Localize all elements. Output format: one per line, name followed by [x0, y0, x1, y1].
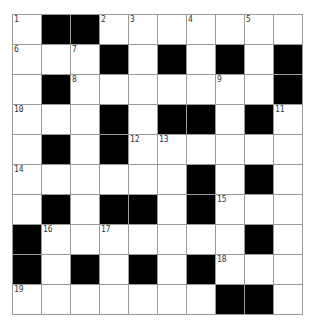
- letter-cell[interactable]: [13, 75, 42, 105]
- block-cell: [158, 45, 187, 75]
- letter-cell[interactable]: [71, 165, 100, 195]
- letter-cell[interactable]: [245, 195, 274, 225]
- letter-cell[interactable]: [187, 75, 216, 105]
- clue-number: 2: [101, 15, 106, 24]
- letter-cell[interactable]: [13, 135, 42, 165]
- letter-cell[interactable]: [71, 135, 100, 165]
- letter-cell[interactable]: [71, 105, 100, 135]
- letter-cell[interactable]: [274, 225, 303, 255]
- letter-cell[interactable]: [129, 165, 158, 195]
- letter-cell[interactable]: 19: [13, 285, 42, 315]
- letter-cell[interactable]: 18: [216, 255, 245, 285]
- letter-cell[interactable]: [71, 195, 100, 225]
- letter-cell[interactable]: [42, 105, 71, 135]
- letter-cell[interactable]: [187, 135, 216, 165]
- letter-cell[interactable]: [129, 75, 158, 105]
- block-cell: [42, 15, 71, 45]
- letter-cell[interactable]: [42, 255, 71, 285]
- letter-cell[interactable]: [187, 225, 216, 255]
- letter-cell[interactable]: [158, 255, 187, 285]
- letter-cell[interactable]: [216, 15, 245, 45]
- clue-number: 10: [14, 105, 24, 114]
- letter-cell[interactable]: 16: [42, 225, 71, 255]
- letter-cell[interactable]: [100, 75, 129, 105]
- letter-cell[interactable]: [158, 225, 187, 255]
- letter-cell[interactable]: [216, 105, 245, 135]
- block-cell: [274, 75, 303, 105]
- letter-cell[interactable]: 5: [245, 15, 274, 45]
- letter-cell[interactable]: [245, 135, 274, 165]
- letter-cell[interactable]: [158, 165, 187, 195]
- letter-cell[interactable]: [216, 135, 245, 165]
- letter-cell[interactable]: [129, 105, 158, 135]
- block-cell: [13, 255, 42, 285]
- letter-cell[interactable]: 9: [216, 75, 245, 105]
- letter-cell[interactable]: [42, 285, 71, 315]
- letter-cell[interactable]: 4: [187, 15, 216, 45]
- letter-cell[interactable]: [129, 225, 158, 255]
- letter-cell[interactable]: [245, 75, 274, 105]
- letter-cell[interactable]: [42, 165, 71, 195]
- letter-cell[interactable]: [129, 285, 158, 315]
- clue-number: 3: [130, 15, 135, 24]
- letter-cell[interactable]: 2: [100, 15, 129, 45]
- letter-cell[interactable]: [100, 255, 129, 285]
- letter-cell[interactable]: [100, 285, 129, 315]
- letter-cell[interactable]: [100, 165, 129, 195]
- clue-number: 5: [246, 15, 251, 24]
- crossword-grid: 12345678910111213141516171819: [12, 14, 303, 315]
- block-cell: [42, 195, 71, 225]
- letter-cell[interactable]: 3: [129, 15, 158, 45]
- block-cell: [42, 135, 71, 165]
- clue-number: 7: [72, 45, 77, 54]
- letter-cell[interactable]: [158, 195, 187, 225]
- block-cell: [274, 45, 303, 75]
- letter-cell[interactable]: [158, 285, 187, 315]
- block-cell: [245, 165, 274, 195]
- letter-cell[interactable]: [158, 75, 187, 105]
- letter-cell[interactable]: [216, 225, 245, 255]
- letter-cell[interactable]: [42, 45, 71, 75]
- clue-number: 12: [130, 135, 140, 144]
- letter-cell[interactable]: 12: [129, 135, 158, 165]
- block-cell: [245, 105, 274, 135]
- block-cell: [129, 195, 158, 225]
- block-cell: [187, 165, 216, 195]
- letter-cell[interactable]: [245, 255, 274, 285]
- letter-cell[interactable]: 11: [274, 105, 303, 135]
- letter-cell[interactable]: [274, 255, 303, 285]
- block-cell: [129, 255, 158, 285]
- letter-cell[interactable]: [187, 45, 216, 75]
- letter-cell[interactable]: [187, 285, 216, 315]
- block-cell: [100, 195, 129, 225]
- letter-cell[interactable]: [13, 195, 42, 225]
- letter-cell[interactable]: 15: [216, 195, 245, 225]
- block-cell: [100, 135, 129, 165]
- block-cell: [245, 285, 274, 315]
- block-cell: [42, 75, 71, 105]
- letter-cell[interactable]: [216, 165, 245, 195]
- letter-cell[interactable]: 8: [71, 75, 100, 105]
- letter-cell[interactable]: 7: [71, 45, 100, 75]
- letter-cell[interactable]: [274, 195, 303, 225]
- letter-cell[interactable]: 10: [13, 105, 42, 135]
- letter-cell[interactable]: [274, 15, 303, 45]
- letter-cell[interactable]: [71, 225, 100, 255]
- block-cell: [71, 15, 100, 45]
- letter-cell[interactable]: 6: [13, 45, 42, 75]
- block-cell: [100, 45, 129, 75]
- letter-cell[interactable]: [245, 45, 274, 75]
- block-cell: [187, 255, 216, 285]
- letter-cell[interactable]: [129, 45, 158, 75]
- letter-cell[interactable]: 14: [13, 165, 42, 195]
- letter-cell[interactable]: [274, 165, 303, 195]
- letter-cell[interactable]: 13: [158, 135, 187, 165]
- letter-cell[interactable]: [274, 285, 303, 315]
- letter-cell[interactable]: [274, 135, 303, 165]
- letter-cell[interactable]: 1: [13, 15, 42, 45]
- clue-number: 15: [217, 195, 227, 204]
- letter-cell[interactable]: 17: [100, 225, 129, 255]
- letter-cell[interactable]: [71, 285, 100, 315]
- clue-number: 16: [43, 225, 53, 234]
- letter-cell[interactable]: [158, 15, 187, 45]
